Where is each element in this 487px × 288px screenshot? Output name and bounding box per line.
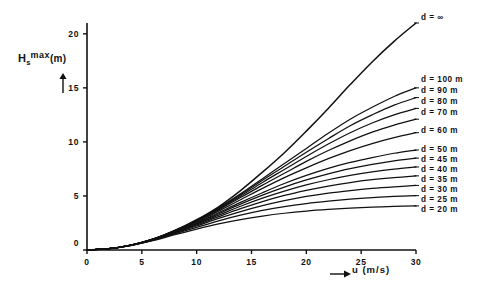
data-curve [87,196,416,250]
x-tick-label: 10 [191,257,202,267]
data-curve [87,119,416,250]
x-tick-label: 0 [84,257,89,267]
data-curve [87,98,416,250]
data-curve [87,23,416,250]
data-curve [87,88,416,250]
legend-item-45m: d = 45 m [421,156,458,164]
legend-item-40m: d = 40 m [421,166,458,174]
legend-item-30m: d = 30 m [421,186,458,194]
origin-label: 0 [74,238,79,248]
legend-item-35m: d = 35 m [421,176,458,184]
legend-item-60m: d = 60 m [421,127,458,135]
y-tick-label: 20 [68,29,79,39]
y-tick-label: 5 [74,191,79,201]
legend-item-25m: d = 25 m [421,196,458,204]
y-axis-tick-labels: 5101520 [68,29,79,201]
x-tick-label: 15 [246,257,257,267]
x-tick-label: 5 [139,257,144,267]
x-axis-direction-arrow-icon [330,268,352,280]
data-curves [87,23,419,250]
data-curve [87,108,416,250]
y-axis-direction-arrow-icon [57,72,69,94]
legend-item-90m: d = 90 m [421,87,458,95]
legend-item-70m: d = 70 m [421,109,458,117]
y-axis-label-superscript: max [30,50,50,60]
legend-item-infinite: d = ∞ [421,14,444,22]
chart-figure: 5101520 051015202530 0 Hsmax(m) u (m/s) … [0,0,487,288]
y-tick-label: 10 [68,137,79,147]
data-curve [87,158,416,250]
x-axis-label: u (m/s) [352,264,390,275]
x-tick-label: 20 [301,257,312,267]
x-tick-label: 30 [411,257,422,267]
y-axis-label-symbol: H [18,52,26,64]
legend-item-80m: d = 80 m [421,98,458,106]
chart-svg: 5101520 051015202530 0 [0,0,487,288]
y-tick-label: 15 [68,83,79,93]
legend-item-50m: d = 50 m [421,146,458,154]
y-axis-label: Hsmax(m) [18,48,66,67]
y-axis-label-unit: (m) [50,53,66,64]
legend-item-20m: d = 20 m [421,206,458,214]
legend-item-100m: d = 100 m [421,76,463,84]
